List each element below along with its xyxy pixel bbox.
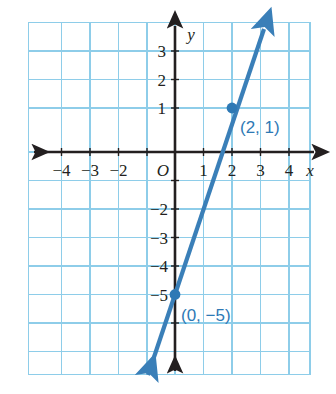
- origin-label: O: [157, 161, 169, 180]
- y-tick-label-3: 3: [158, 42, 167, 61]
- point-label-2-1: (2, 1): [240, 118, 280, 137]
- x-tick-label-2: 2: [228, 161, 237, 180]
- x-tick-label--3: −3: [81, 161, 99, 180]
- y-tick-label--3: −3: [150, 229, 168, 248]
- y-tick-label--2: −2: [150, 200, 168, 219]
- x-tick-label-4: 4: [285, 161, 294, 180]
- x-tick-label--4: −4: [52, 161, 71, 180]
- x-tick-label--2: −2: [109, 161, 127, 180]
- y-tick-label--5: −5: [150, 286, 168, 305]
- y-tick-label-1: 1: [158, 99, 167, 118]
- data-point-0-minus-5: [170, 289, 181, 300]
- y-axis-label: y: [185, 25, 195, 44]
- graph-figure: −4 −3 −2 1 2 3 4 3 2 1 −2 −3 −4 −5 O x y…: [0, 0, 336, 394]
- x-tick-label-3: 3: [256, 161, 265, 180]
- y-tick-label-2: 2: [158, 71, 167, 90]
- data-point-2-1: [227, 103, 238, 114]
- x-tick-label-1: 1: [199, 161, 208, 180]
- point-label-0-minus-5: (0, −5): [181, 306, 231, 325]
- canvas-background: [0, 0, 336, 394]
- x-axis-label: x: [305, 161, 314, 180]
- y-tick-label--4: −4: [150, 257, 169, 276]
- coordinate-plane-svg: −4 −3 −2 1 2 3 4 3 2 1 −2 −3 −4 −5 O x y…: [0, 0, 336, 394]
